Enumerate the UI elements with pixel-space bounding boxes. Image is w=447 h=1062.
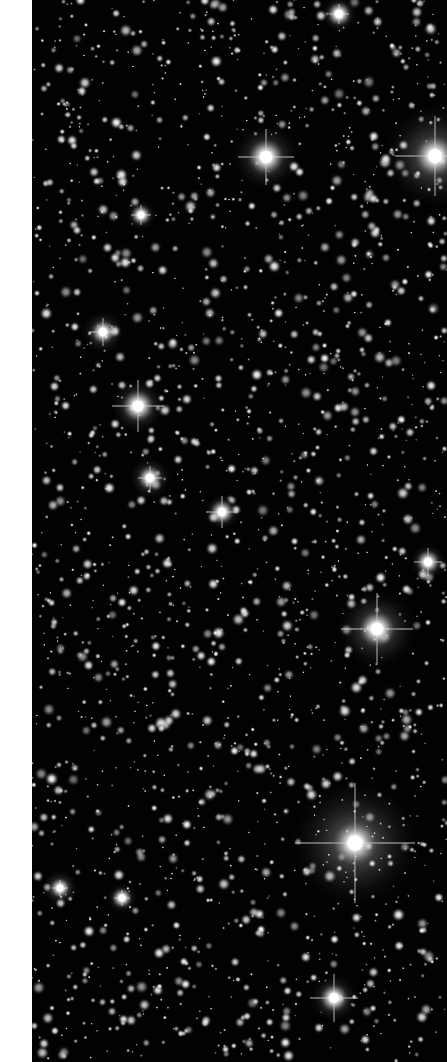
star-field-image [32,0,447,1062]
star-field-canvas [32,0,447,1062]
white-margin [0,0,32,1062]
